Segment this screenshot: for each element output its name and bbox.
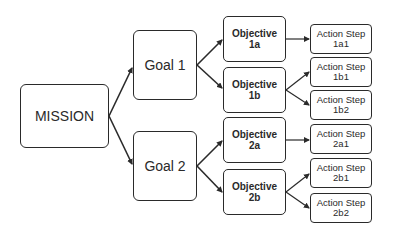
arrow-obj1b-act1b1 (286, 72, 309, 90)
action-step-node-1b2: Action Step 1b2 (310, 90, 372, 120)
objective-id: 2a (232, 140, 277, 151)
action-step-id: 2b2 (317, 208, 366, 219)
objective-node-1b: Objective 1b (223, 67, 286, 113)
goal-node-2: Goal 2 (133, 131, 197, 201)
action-step-node-1b1: Action Step 1b1 (310, 57, 372, 87)
arrow-goal2-obj2a (197, 141, 222, 166)
action-step-node-2b2: Action Step 2b2 (310, 193, 372, 223)
objective-label: Objective (232, 181, 277, 192)
goal-label: Goal 1 (144, 57, 185, 73)
arrow-goal2-obj2b (197, 166, 222, 192)
action-step-id: 1b1 (317, 72, 366, 83)
action-step-id: 2b1 (317, 173, 366, 184)
mission-hierarchy-diagram: MISSION Goal 1 Goal 2 Objective 1a Objec… (0, 0, 393, 238)
objective-node-2a: Objective 2a (223, 117, 286, 163)
arrow-obj2b-act2b1 (286, 174, 309, 192)
objective-label: Objective (232, 129, 277, 140)
arrow-mission-goal2 (109, 116, 132, 164)
arrow-obj2b-act2b2 (286, 192, 309, 208)
objective-id: 2b (232, 192, 277, 203)
action-step-node-2b1: Action Step 2b1 (310, 158, 372, 188)
mission-label: MISSION (35, 108, 94, 124)
action-step-node-1a1: Action Step 1a1 (310, 24, 372, 54)
objective-id: 1b (232, 90, 277, 101)
objective-id: 1a (232, 39, 277, 50)
goal-label: Goal 2 (144, 158, 185, 174)
arrow-obj1b-act1b2 (286, 90, 309, 105)
action-step-id: 1b2 (317, 105, 366, 116)
objective-label: Objective (232, 28, 277, 39)
objective-node-1a: Objective 1a (223, 16, 286, 62)
arrow-goal1-obj1a (197, 40, 222, 65)
action-step-node-2a1: Action Step 2a1 (310, 124, 372, 154)
action-step-id: 2a1 (317, 139, 366, 150)
arrow-mission-goal1 (109, 68, 132, 116)
objective-label: Objective (232, 79, 277, 90)
arrow-goal1-obj1b (197, 65, 222, 88)
goal-node-1: Goal 1 (133, 30, 197, 100)
objective-node-2b: Objective 2b (223, 169, 286, 215)
action-step-id: 1a1 (317, 39, 366, 50)
mission-node: MISSION (20, 84, 109, 148)
